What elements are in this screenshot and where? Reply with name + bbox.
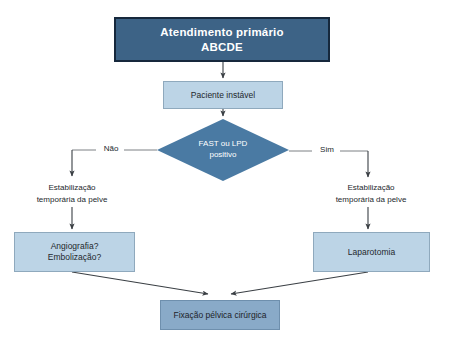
node-angiography-embolization: Angiografia? Embolização? — [14, 232, 135, 272]
node-surgical-fixation-label: Fixação pélvica cirúrgica — [173, 310, 266, 321]
edge-laparotomy-to-fixation — [231, 272, 368, 294]
text-stabilization-right: Estabilização temporária da pelve — [311, 182, 431, 205]
node-primary-care-line2: ABCDE — [160, 40, 283, 54]
edge-angiography-to-fixation — [72, 272, 208, 294]
node-unstable-patient: Paciente instável — [163, 81, 283, 109]
node-decision-line1: FAST ou LPD — [183, 139, 263, 150]
branch-label-yes-text: Sim — [320, 145, 334, 154]
branch-label-no-text: Não — [104, 144, 119, 153]
flowchart-canvas: Atendimento primário ABCDE Paciente inst… — [0, 0, 453, 344]
text-stabilization-left: Estabilização temporária da pelve — [12, 182, 132, 205]
text-stabilization-right-line1: Estabilização — [311, 182, 431, 194]
text-stabilization-left-line1: Estabilização — [12, 182, 132, 194]
node-decision-line2: positivo — [183, 150, 263, 161]
node-surgical-pelvic-fixation: Fixação pélvica cirúrgica — [160, 300, 280, 330]
node-decision-text: FAST ou LPD positivo — [183, 139, 263, 161]
node-angiography-line2: Embolização? — [48, 252, 101, 263]
text-stabilization-left-line2: temporária da pelve — [12, 194, 132, 206]
text-stabilization-right-line2: temporária da pelve — [311, 194, 431, 206]
branch-label-no: Não — [98, 144, 124, 153]
branch-label-yes: Sim — [314, 145, 340, 154]
node-angiography-line1: Angiografia? — [48, 241, 101, 252]
node-angiography-text: Angiografia? Embolização? — [48, 241, 101, 262]
node-primary-care-line1: Atendimento primário — [160, 25, 283, 39]
node-laparotomy: Laparotomia — [313, 232, 430, 272]
node-primary-care-text: Atendimento primário ABCDE — [160, 25, 283, 54]
node-laparotomy-label: Laparotomia — [348, 247, 395, 258]
node-primary-care: Atendimento primário ABCDE — [114, 17, 330, 62]
node-unstable-patient-label: Paciente instável — [191, 90, 255, 101]
node-decision-fast-lpd: FAST ou LPD positivo — [157, 119, 289, 181]
